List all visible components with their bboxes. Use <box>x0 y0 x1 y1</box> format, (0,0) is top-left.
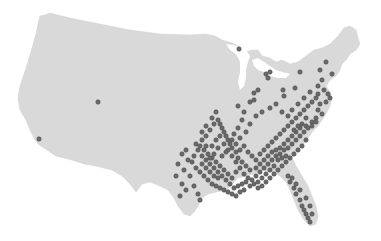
map-point-marker <box>266 76 270 80</box>
map-point-marker <box>278 152 282 156</box>
map-point-marker <box>293 86 297 90</box>
map-point-marker <box>290 176 294 180</box>
map-point-marker <box>260 110 264 114</box>
map-point-marker <box>212 166 216 170</box>
map-point-marker <box>298 70 302 74</box>
map-point-marker <box>198 144 202 148</box>
map-point-marker <box>37 137 41 141</box>
map-point-marker <box>214 184 218 188</box>
map-point-marker <box>264 172 268 176</box>
map-point-marker <box>230 138 234 142</box>
map-point-marker <box>324 100 328 104</box>
map-point-marker <box>280 164 284 168</box>
map-point-marker <box>274 148 278 152</box>
map-point-marker <box>212 122 216 126</box>
map-point-marker <box>316 92 320 96</box>
map-point-marker <box>266 144 270 148</box>
map-point-marker <box>268 168 272 172</box>
map-point-marker <box>180 152 184 156</box>
map-point-marker <box>302 96 306 100</box>
map-point-marker <box>244 164 248 168</box>
map-point-marker <box>294 116 298 120</box>
map-point-marker <box>230 154 234 158</box>
map-point-marker <box>214 110 218 114</box>
map-point-marker <box>204 124 208 128</box>
map-point-marker <box>318 102 322 106</box>
map-point-marker <box>190 160 194 164</box>
map-point-marker <box>252 98 256 102</box>
map-point-marker <box>260 184 264 188</box>
map-point-marker <box>222 188 226 192</box>
map-point-marker <box>268 106 272 110</box>
map-point-marker <box>194 166 198 170</box>
map-point-marker <box>218 134 222 138</box>
map-point-marker <box>248 122 252 126</box>
map-point-marker <box>230 146 234 150</box>
map-point-marker <box>282 94 286 98</box>
map-point-marker <box>244 130 248 134</box>
map-point-marker <box>302 208 306 212</box>
map-point-marker <box>284 160 288 164</box>
map-point-marker <box>290 142 294 146</box>
map-point-marker <box>292 128 296 132</box>
map-point-marker <box>214 138 218 142</box>
map-point-marker <box>182 168 186 172</box>
map-point-marker <box>216 146 220 150</box>
map-point-marker <box>328 96 332 100</box>
map-point-marker <box>224 178 228 182</box>
map-point-marker <box>194 142 198 146</box>
map-point-marker <box>242 188 246 192</box>
map-point-marker <box>308 220 312 224</box>
map-point-marker <box>290 120 294 124</box>
map-point-marker <box>206 152 210 156</box>
map-point-marker <box>216 176 220 180</box>
map-point-marker <box>306 104 310 108</box>
map-point-marker <box>210 116 214 120</box>
map-point-marker <box>314 120 318 124</box>
map-point-marker <box>302 108 306 112</box>
map-point-marker <box>268 70 272 74</box>
map-point-marker <box>326 92 330 96</box>
map-point-marker <box>242 144 246 148</box>
map-point-marker <box>260 176 264 180</box>
map-point-marker <box>184 148 188 152</box>
map-point-marker <box>256 88 260 92</box>
map-point-marker <box>200 130 204 134</box>
map-point-marker <box>270 150 274 154</box>
map-point-marker <box>304 116 308 120</box>
map-point-marker <box>252 182 256 186</box>
map-point-marker <box>318 68 322 72</box>
map-point-marker <box>262 148 266 152</box>
map-point-marker <box>308 204 312 208</box>
map-point-marker <box>208 128 212 132</box>
map-point-marker <box>210 144 214 148</box>
us-map <box>0 0 381 241</box>
map-point-marker <box>220 174 224 178</box>
map-point-marker <box>208 156 212 160</box>
map-point-marker <box>294 182 298 186</box>
map-point-marker <box>292 152 296 156</box>
map-point-marker <box>254 114 258 118</box>
map-point-marker <box>282 128 286 132</box>
map-point-marker <box>278 146 282 150</box>
map-point-marker <box>274 102 278 106</box>
map-point-marker <box>270 158 274 162</box>
map-point-marker <box>302 130 306 134</box>
map-point-marker <box>240 118 244 122</box>
map-point-marker <box>286 138 290 142</box>
map-point-marker <box>268 176 272 180</box>
map-point-marker <box>286 114 290 118</box>
map-point-marker <box>218 164 222 168</box>
map-point-marker <box>281 88 285 92</box>
map-point-marker <box>178 194 182 198</box>
map-point-marker <box>214 160 218 164</box>
map-point-marker <box>280 156 284 160</box>
map-point-marker <box>212 174 216 178</box>
map-point-marker <box>200 154 204 158</box>
map-point-marker <box>294 138 298 142</box>
map-point-marker <box>226 172 230 176</box>
map-point-marker <box>298 198 302 202</box>
map-point-marker <box>220 154 224 158</box>
map-point-marker <box>272 172 276 176</box>
map-point-marker <box>238 166 242 170</box>
